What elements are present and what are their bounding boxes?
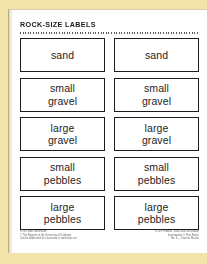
label-text-line: large [145, 201, 169, 214]
label-card[interactable]: large gravel [114, 117, 199, 151]
header-dotted-rule [20, 32, 199, 34]
label-card[interactable]: small pebbles [114, 157, 199, 191]
page-content: ROCK-SIZE LABELS sand sand small gravel … [20, 20, 199, 247]
footer-line: No. 4 — Teacher Master [155, 237, 199, 241]
label-text-line: small [144, 82, 169, 95]
label-text-line: small [50, 82, 75, 95]
label-text-line: large [145, 122, 169, 135]
label-text-line: large [51, 201, 75, 214]
label-text-line: gravel [48, 134, 77, 147]
label-text-line: small [50, 161, 75, 174]
label-text-line: large [51, 122, 75, 135]
label-text-line: small [144, 161, 169, 174]
label-text-line: pebbles [44, 174, 81, 187]
label-text-line: gravel [142, 95, 171, 108]
scanned-page: ROCK-SIZE LABELS sand sand small gravel … [8, 9, 207, 253]
page-footer: FOSS Next Generation © The Regents of th… [20, 230, 199, 246]
label-text-line: pebbles [44, 213, 81, 226]
label-card[interactable]: small pebbles [20, 157, 105, 191]
page-gutter-shading [9, 10, 13, 253]
page-header: ROCK-SIZE LABELS [20, 20, 199, 34]
label-text-line: sand [51, 49, 74, 62]
page-title: ROCK-SIZE LABELS [20, 20, 96, 29]
label-text-line: gravel [142, 134, 171, 147]
label-card[interactable]: small gravel [114, 78, 199, 112]
label-card[interactable]: sand [114, 38, 199, 72]
footer-copyright-block: FOSS Next Generation © The Regents of th… [20, 230, 77, 241]
label-card[interactable]: large pebbles [20, 196, 105, 230]
label-text-line: gravel [48, 95, 77, 108]
label-text-line: pebbles [138, 174, 175, 187]
label-text-line: pebbles [138, 213, 175, 226]
rock-size-label-grid: sand sand small gravel small gravel larg… [20, 38, 199, 230]
label-text-line: sand [145, 49, 168, 62]
footer-line: Can be duplicated for classroom or works… [20, 237, 77, 241]
label-card[interactable]: large gravel [20, 117, 105, 151]
label-card[interactable]: sand [20, 38, 105, 72]
label-card[interactable]: small gravel [20, 78, 105, 112]
label-card[interactable]: large pebbles [114, 196, 199, 230]
footer-source-block: FOSS Pebbles, Sand, and Silt Module Inve… [155, 230, 199, 241]
